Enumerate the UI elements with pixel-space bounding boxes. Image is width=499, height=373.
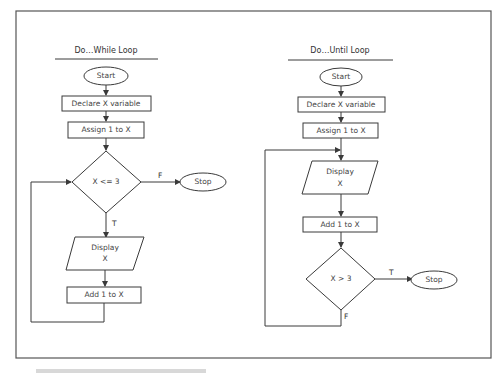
false-label: F [344,312,348,321]
stop-label: Stop [194,177,211,186]
start-label: Start [97,71,115,80]
display-label-line2: X [102,254,107,263]
declare-label: Declare X variable [307,100,376,109]
assign-label: Assign 1 to X [316,126,365,135]
do-until-flowchart: Do…Until Loop Start Declare X variable A… [265,46,457,326]
start-label: Start [332,72,350,81]
display-io [302,161,378,194]
condition-label: X <= 3 [92,177,119,186]
display-label-line1: Display [91,243,119,252]
increment-label: Add 1 to X [84,290,123,299]
display-label-line2: X [337,179,342,188]
condition-label: X > 3 [331,274,352,283]
declare-label: Declare X variable [72,99,141,108]
false-label: F [158,171,162,180]
do-while-flowchart: Do…While Loop Start Declare X variable A… [31,46,226,322]
do-while-title: Do…While Loop [74,46,137,55]
do-until-title: Do…Until Loop [310,46,369,55]
display-label-line1: Display [326,167,354,176]
assign-label: Assign 1 to X [81,125,130,134]
flowchart-canvas: Do…While Loop Start Declare X variable A… [0,0,499,373]
true-label: T [388,268,394,277]
true-label: T [111,219,117,228]
figure-caption-clipped [36,369,206,373]
stop-label: Stop [425,275,442,284]
increment-label: Add 1 to X [320,220,359,229]
